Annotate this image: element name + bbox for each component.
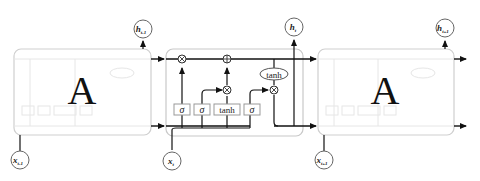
x-prev-node: xt-1 [11,151,29,169]
candidate-layer: tanh [214,104,240,115]
x-current-node: xt [163,152,181,170]
h-next-node: ht+1 [436,19,454,37]
input-gate: σ [194,104,210,115]
pointwise-add [223,55,231,63]
output-gate: σ [244,104,260,115]
pointwise-multiply-output [270,86,278,94]
cell-next: A [318,49,454,135]
svg-text:tanh: tanh [219,105,235,115]
h-current-node: ht [285,18,303,36]
x-next-node: xt+1 [315,151,333,169]
pointwise-multiply-input [223,86,231,94]
h-prev-node: ht-1 [134,20,152,38]
cell-label: A [68,68,97,113]
lstm-diagram: A A [0,0,480,181]
pointwise-tanh: tanh [260,68,288,80]
pointwise-multiply-forget [178,55,186,63]
svg-text:tanh: tanh [266,70,282,80]
cell-prev: A [14,49,151,135]
cell-current [166,49,303,136]
forget-gate: σ [174,104,190,115]
cell-label: A [371,68,400,113]
